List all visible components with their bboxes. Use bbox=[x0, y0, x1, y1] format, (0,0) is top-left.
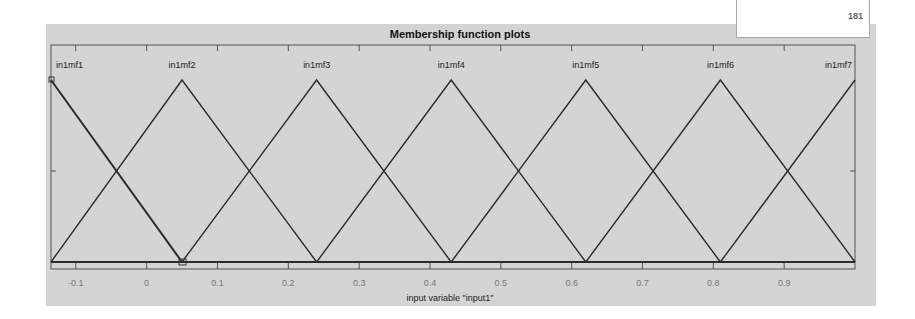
mf-label-in1mf3[interactable]: in1mf3 bbox=[303, 60, 330, 70]
mf-label-in1mf2[interactable]: in1mf2 bbox=[169, 60, 196, 70]
x-tick-label: -0.1 bbox=[68, 278, 84, 288]
x-tick-label: 0.7 bbox=[636, 278, 649, 288]
x-tick-label: 0.3 bbox=[353, 278, 366, 288]
x-tick-label: 0.4 bbox=[424, 278, 437, 288]
x-axis-label: input variable "input1" bbox=[407, 293, 494, 303]
mf-curve-in1mf4[interactable] bbox=[317, 80, 586, 262]
mf-curve-in1mf5[interactable] bbox=[451, 80, 720, 262]
mf-label-in1mf6[interactable]: in1mf6 bbox=[707, 60, 734, 70]
mf-curve-in1mf3[interactable] bbox=[182, 80, 451, 262]
x-tick-label: 0.9 bbox=[778, 278, 791, 288]
mf-curve-in1mf6[interactable] bbox=[586, 80, 855, 262]
x-tick-label: 0.2 bbox=[282, 278, 295, 288]
plot-title: Membership function plots bbox=[390, 28, 531, 40]
membership-function-lines[interactable] bbox=[51, 80, 855, 262]
mf-label-in1mf5[interactable]: in1mf5 bbox=[572, 60, 599, 70]
mf-label-in1mf1[interactable]: in1mf1 bbox=[56, 60, 83, 70]
x-tick-label: 0.5 bbox=[495, 278, 508, 288]
mf-label-in1mf4[interactable]: in1mf4 bbox=[438, 60, 465, 70]
axes-frame bbox=[51, 45, 855, 269]
mf-curve-in1mf2[interactable] bbox=[51, 80, 317, 262]
x-tick-label: 0.8 bbox=[707, 278, 720, 288]
membership-function-plot[interactable]: Membership function plots in1mf1in1mf2in… bbox=[0, 0, 915, 319]
x-tick-label: 0.6 bbox=[565, 278, 578, 288]
top-ticks bbox=[76, 45, 784, 51]
x-tick-label: 0 bbox=[144, 278, 149, 288]
x-tick-label: 0.1 bbox=[211, 278, 224, 288]
mf-label-in1mf7[interactable]: in1mf7 bbox=[825, 60, 852, 70]
